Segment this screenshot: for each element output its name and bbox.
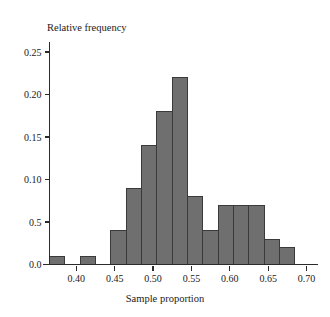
y-tick-label: 0.20 (24, 89, 42, 100)
histogram-bar (188, 197, 203, 265)
x-tick-label: 0.50 (144, 273, 162, 284)
histogram-bar (172, 78, 187, 265)
x-tick-label: 0.65 (259, 273, 277, 284)
histogram-bar (126, 188, 141, 265)
y-tick-label: 0.0 (29, 259, 42, 270)
y-tick-label: 0.10 (24, 174, 42, 185)
histogram-bar (50, 256, 65, 265)
histogram-bar (264, 239, 279, 265)
histogram-bar (203, 231, 218, 265)
histogram-bar (111, 231, 126, 265)
y-tick-label: 0.5 (29, 217, 42, 228)
x-tick-label: 0.70 (298, 273, 316, 284)
histogram-bar (234, 205, 249, 265)
histogram-bar (157, 112, 172, 265)
x-tick-label: 0.55 (183, 273, 201, 284)
x-tick-label: 0.40 (68, 273, 86, 284)
y-axis-title: Relative frequency (47, 22, 127, 33)
histogram-bar (280, 248, 295, 265)
histogram-bar (142, 146, 157, 265)
histogram-bar (249, 205, 264, 265)
y-tick-label: 0.25 (24, 47, 42, 58)
histogram-chart: Relative frequency 0.00.50.100.150.200.2… (0, 0, 330, 317)
histogram-bar (80, 256, 95, 265)
x-tick-label: 0.45 (106, 273, 124, 284)
histogram-figure: Relative frequency 0.00.50.100.150.200.2… (0, 0, 330, 317)
x-tick-label: 0.60 (221, 273, 239, 284)
histogram-bar (218, 205, 233, 265)
y-tick-label: 0.15 (24, 132, 42, 143)
x-axis-title: Sample proportion (126, 293, 205, 304)
